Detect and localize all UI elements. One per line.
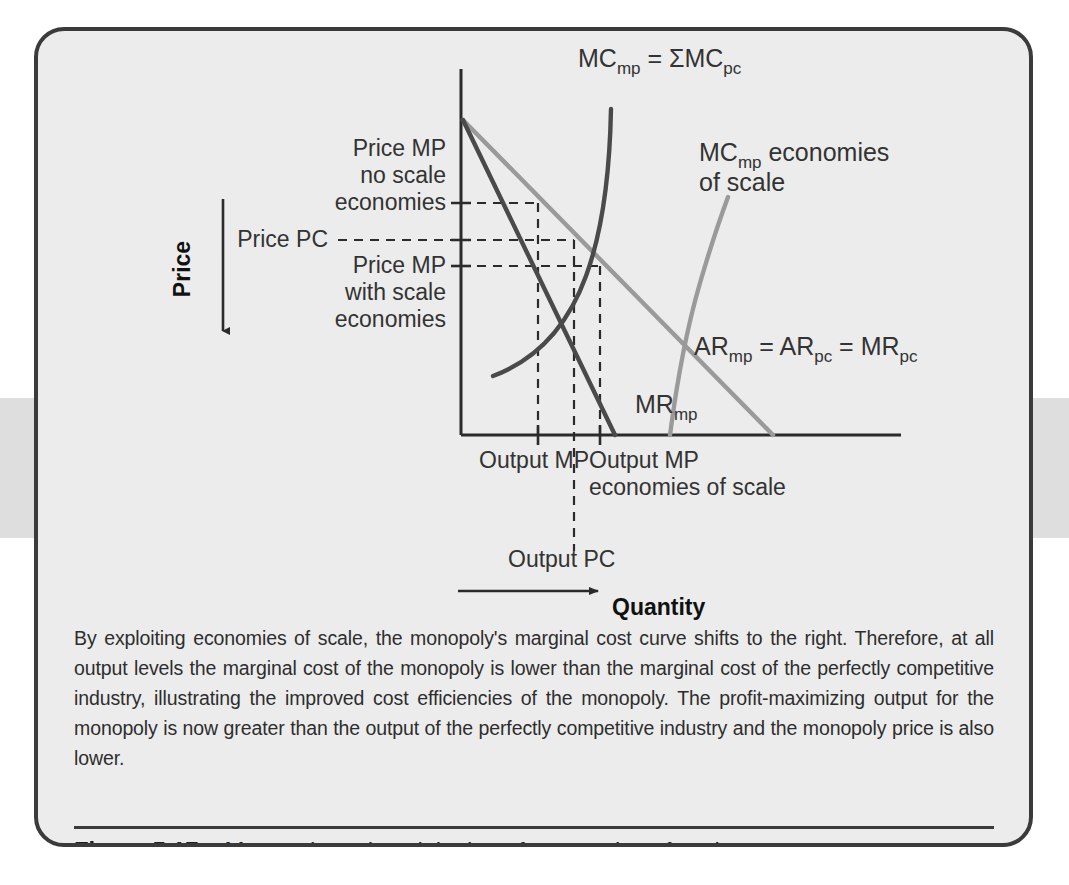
curve-mc-mp-economies-of-scale — [670, 197, 728, 435]
price-mp-no-scale-line1: Price MP — [353, 135, 446, 161]
price-mp-with-scale-line2: with scale — [344, 279, 446, 305]
price-mp-no-scale-line3: economies — [335, 189, 446, 215]
chart-area: Price — [38, 31, 1029, 621]
annotation-output-pc: Output PC — [458, 546, 615, 591]
annotation-price-mp-with-scale-economies: Price MP with scale economies — [335, 252, 446, 332]
figure-divider-rule — [74, 826, 994, 829]
caption-block: By exploiting economies of scale, the mo… — [74, 623, 994, 773]
price-mp-with-scale-line3: economies — [335, 306, 446, 332]
label-mr-mp: MRmp — [635, 390, 698, 424]
label-ar-mp-ar-pc-mr-pc: ARmp = ARpc = MRpc — [694, 332, 918, 366]
annotation-output-mp-economies-line1: Output MP — [589, 447, 699, 473]
figure-title: Monopoly and exploitation of economies o… — [225, 837, 733, 847]
economics-diagram: Price — [38, 31, 1029, 621]
output-pc-label: Output PC — [508, 546, 615, 572]
price-mp-no-scale-line2: no scale — [360, 162, 446, 188]
annotation-price-pc: Price PC — [237, 226, 461, 252]
figure-caption-bar: Figure 5.17 Monopoly and exploitation of… — [74, 837, 994, 847]
annotation-price-mp-no-scale-economies: Price MP no scale economies — [335, 135, 446, 215]
y-axis-title: Price — [169, 241, 195, 297]
figure-page: by innovation and exploiting economies o… — [0, 0, 1069, 885]
curve-mc-mp-sum-mc-pc — [493, 109, 611, 376]
figure-card: Price — [34, 27, 1033, 847]
figure-number: Figure 5.17 — [74, 837, 199, 847]
annotation-output-mp-economies-line2: economies of scale — [589, 474, 786, 500]
label-mc-mp-economies-of-scale-line2: of scale — [699, 168, 785, 196]
x-axis-title: Quantity — [612, 594, 705, 620]
figure-caption-text: By exploiting economies of scale, the mo… — [74, 623, 994, 773]
price-pc-label: Price PC — [237, 226, 328, 252]
price-axis-arrow-group: Price — [169, 199, 223, 331]
price-mp-with-scale-line1: Price MP — [353, 252, 446, 278]
annotation-output-mp: Output MP — [479, 447, 589, 473]
label-mc-mp-sum-mc-pc: MCmp = ΣMCpc — [578, 44, 742, 78]
label-mc-mp-economies-of-scale: MCmp economies — [699, 138, 889, 172]
